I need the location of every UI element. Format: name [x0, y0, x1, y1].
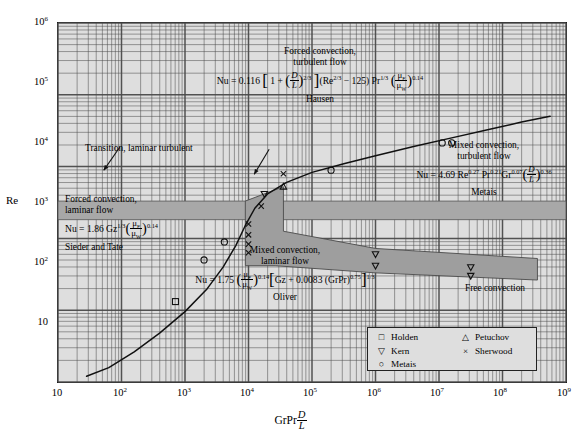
legend-label-metais: Metais — [391, 359, 416, 369]
triangle-up-marker-icon: △ — [461, 332, 470, 342]
equation-sieder-tate: Nu = 1.86 Gz1/3(μFμW)0.14 — [65, 220, 225, 239]
region-mixed-laminar: Mixed convection, laminar flow Nu = 1.75… — [160, 245, 410, 303]
x-tick-6: 106 — [354, 387, 394, 398]
region-forced-laminar-title1: Forced convection, — [65, 194, 225, 205]
y-tick-2: 102 — [14, 256, 48, 267]
author-oliver: Oliver — [160, 292, 410, 303]
circle-marker-icon: ○ — [377, 359, 386, 369]
region-mixed-turbulent: Mixed convection, turbulent flow Nu = 4.… — [394, 140, 574, 198]
region-forced-turbulent-title1: Forced convection, — [170, 46, 470, 57]
x-axis-label: GrPrDL — [0, 410, 581, 433]
equation-metais: Nu = 4.69 Re0.27 Pr0.21Gr0.07(DL)0.36 — [394, 166, 574, 185]
legend-label-sherwood: Sherwood — [475, 346, 512, 356]
cross-marker-icon: × — [461, 346, 470, 356]
transition-band-label: Transition, laminar turbulent — [85, 143, 265, 154]
triangle-down-marker-icon: ▽ — [377, 346, 386, 356]
legend-item-metais: ○ Metais — [377, 358, 461, 370]
y-tick-5: 105 — [14, 76, 48, 87]
region-free-convection-title: Free convection — [430, 283, 560, 294]
x-tick-3: 103 — [164, 387, 204, 398]
region-free-convection: Free convection — [430, 283, 560, 294]
region-mixed-laminar-title1: Mixed convection, — [160, 245, 410, 256]
author-metais: Metais — [394, 187, 574, 198]
legend-item-sherwood: × Sherwood — [461, 345, 512, 357]
x-tick-8: 108 — [480, 387, 520, 398]
y-tick-1: 10 — [14, 316, 48, 327]
legend-label-petuchov: Petuchov — [475, 332, 509, 342]
chart-figure: Re 106 105 104 103 102 10 10 102 103 104… — [0, 0, 581, 444]
y-tick-3: 103 — [14, 196, 48, 207]
x-tick-1: 10 — [37, 387, 77, 398]
y-tick-4: 104 — [14, 136, 48, 147]
equation-oliver: Nu = 1.75 (μFμW)0.14[Gz + 0.0083 (GrPr)0… — [160, 271, 410, 290]
equation-hausen: Nu = 0.116 [ 1 + (DL)2/3 ](Re2/3 − 125) … — [170, 72, 470, 91]
region-mixed-turbulent-title2: turbulent flow — [394, 151, 574, 162]
square-marker-icon: □ — [377, 332, 386, 342]
legend-item-petuchov: △ Petuchov — [461, 331, 512, 343]
x-tick-7: 107 — [417, 387, 457, 398]
legend: □ Holden ▽ Kern ○ Metais △ Petuchov × Sh… — [367, 327, 537, 371]
legend-item-kern: ▽ Kern — [377, 345, 461, 357]
x-tick-2: 102 — [100, 387, 140, 398]
x-axis-label-text: GrPrDL — [274, 414, 306, 426]
legend-column-right: △ Petuchov × Sherwood — [461, 331, 512, 370]
author-hausen: Hausen — [170, 94, 470, 105]
legend-item-holden: □ Holden — [377, 331, 461, 343]
region-forced-laminar-title2: laminar flow — [65, 205, 225, 216]
region-forced-turbulent-title2: turbulent flow — [170, 57, 470, 68]
region-mixed-laminar-title2: laminar flow — [160, 256, 410, 267]
legend-label-holden: Holden — [391, 332, 418, 342]
x-tick-5: 105 — [290, 387, 330, 398]
y-tick-6: 106 — [14, 16, 48, 27]
legend-label-kern: Kern — [391, 346, 409, 356]
region-forced-turbulent: Forced convection, turbulent flow Nu = 0… — [170, 46, 470, 105]
region-mixed-turbulent-title1: Mixed convection, — [394, 140, 574, 151]
transition-band-label-text: Transition, laminar turbulent — [85, 143, 265, 154]
x-tick-4: 104 — [227, 387, 267, 398]
x-tick-9: 109 — [544, 387, 581, 398]
legend-column-left: □ Holden ▽ Kern ○ Metais — [377, 331, 461, 370]
